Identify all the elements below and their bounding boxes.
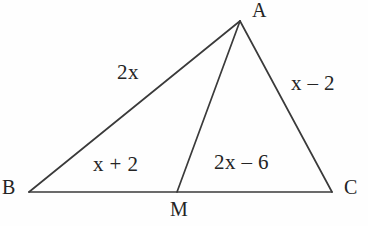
edge-label-ac: x – 2 — [291, 73, 335, 94]
edge-label-bm: x + 2 — [93, 154, 138, 175]
vertex-label-a: A — [252, 0, 267, 20]
vertex-label-c: C — [344, 177, 358, 197]
edge-label-mc: 2x – 6 — [214, 152, 269, 173]
edge-label-ab: 2x — [117, 62, 139, 83]
vertex-label-b: B — [2, 177, 16, 197]
vertex-label-m: M — [170, 199, 188, 219]
triangle-figure — [0, 0, 368, 226]
diagram-canvas: A B C M 2x x – 2 x + 2 2x – 6 — [0, 0, 368, 226]
